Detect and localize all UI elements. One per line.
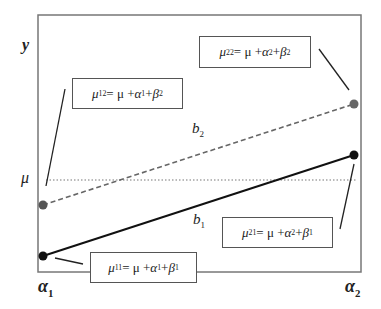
point-mu21 xyxy=(350,151,359,160)
alpha2-label: α2 xyxy=(345,276,360,299)
mu-axis-label: μ xyxy=(21,169,29,187)
leader-mu11 xyxy=(55,258,83,264)
point-mu11 xyxy=(39,252,48,261)
alpha1-label: α1 xyxy=(38,276,53,299)
leader-mu21 xyxy=(340,164,354,229)
b2-label: b2 xyxy=(192,120,204,139)
y-axis-label: y xyxy=(22,36,29,54)
leader-mu22 xyxy=(319,49,349,90)
box-mu22: μ22 = μ + α2 + β2 xyxy=(199,36,311,68)
point-mu22 xyxy=(350,100,359,109)
box-mu12: μ12 = μ + α1 + β2 xyxy=(72,78,183,109)
leader-mu12 xyxy=(46,89,65,186)
box-mu21: μ21 = μ + α2 + β1 xyxy=(222,217,333,248)
box-mu11: μ11 = μ + α1 + β1 xyxy=(90,252,197,283)
point-mu12 xyxy=(39,201,48,210)
b1-label: b1 xyxy=(193,211,205,230)
